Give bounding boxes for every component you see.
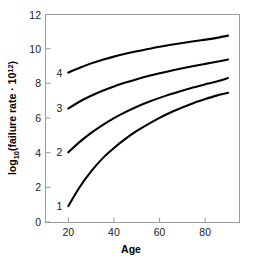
x-tick-label-60: 60: [154, 226, 166, 238]
y-tick-label-0: 0: [35, 216, 41, 228]
x-tick-label-80: 80: [199, 226, 211, 238]
plot-frame: [46, 15, 240, 223]
x-tick-label-40: 40: [108, 226, 120, 238]
y-tick-label-8: 8: [35, 77, 41, 89]
series-label-3: 3: [56, 102, 62, 114]
y-axis-title-superscript: 12: [6, 64, 15, 72]
series-label-1: 1: [56, 200, 62, 212]
y-axis-ticks: [46, 15, 51, 223]
chart-series-group: [68, 36, 228, 206]
x-axis-title: Age: [121, 243, 141, 255]
y-tick-label-12: 12: [29, 9, 41, 21]
series-label-4: 4: [56, 67, 62, 79]
y-axis-title-subscript: 10: [12, 151, 21, 159]
series-line-1: [68, 93, 228, 206]
series-label-2: 2: [56, 146, 62, 158]
y-tick-label-4: 4: [35, 147, 41, 159]
x-tick-label-20: 20: [62, 226, 74, 238]
series-labels: 1 2 3 4: [56, 67, 62, 212]
y-tick-label-10: 10: [29, 43, 41, 55]
chart-figure: 0 2 4 6 8 10 12 20 40 60 80 Age log10(f: [0, 0, 253, 262]
y-axis-title-tail: ): [6, 61, 18, 65]
x-axis-tick-labels: 20 40 60 80: [62, 226, 211, 238]
y-axis-title: log10(failure rate · 1012): [6, 61, 21, 175]
y-tick-label-2: 2: [35, 181, 41, 193]
x-axis-ticks: [68, 218, 205, 223]
y-axis-title-mid: (failure rate · 10: [6, 73, 18, 151]
svg-text:log10(failure rate · 1012): log10(failure rate · 1012): [6, 61, 21, 175]
series-line-2: [68, 78, 228, 152]
y-axis-tick-labels: 0 2 4 6 8 10 12: [29, 9, 41, 228]
failure-rate-line-chart: 0 2 4 6 8 10 12 20 40 60 80 Age log10(f: [0, 0, 253, 262]
series-line-4: [68, 36, 228, 73]
y-axis-title-base: log: [6, 159, 18, 175]
y-tick-label-6: 6: [35, 112, 41, 124]
